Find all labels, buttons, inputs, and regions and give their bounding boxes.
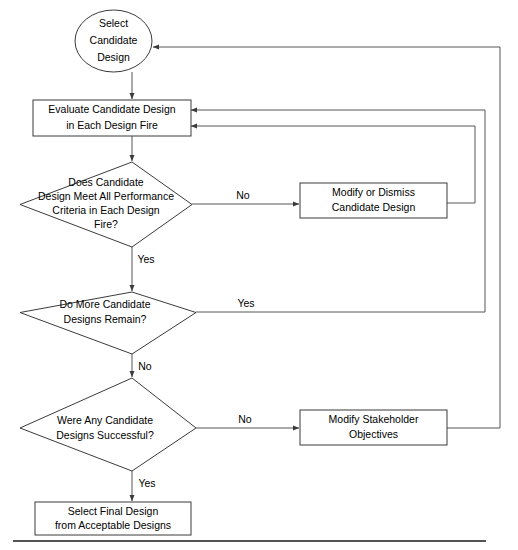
node-modify-or-dismiss-line-2: Candidate Design xyxy=(332,201,416,213)
node-modify-stakeholder-objectives[interactable]: Modify Stakeholder Objectives xyxy=(300,410,447,445)
node-modify-stakeholder-line-1: Modify Stakeholder xyxy=(329,413,419,425)
edge-label-more-candidates-yes: Yes xyxy=(237,297,254,309)
node-performance-criteria-line-2: Design Meet All Performance xyxy=(38,190,174,202)
node-more-candidates-line-1: Do More Candidate xyxy=(59,298,150,310)
node-select-candidate-design[interactable]: Select Candidate Design xyxy=(75,10,152,72)
node-select-final-design[interactable]: Select Final Design from Acceptable Desi… xyxy=(35,502,191,535)
node-performance-criteria-line-4: Fire? xyxy=(94,218,118,230)
node-evaluate-candidate-design[interactable]: Evaluate Candidate Design in Each Design… xyxy=(33,100,191,136)
node-any-successful-decision[interactable]: Were Any Candidate Designs Successful? xyxy=(20,378,196,471)
edge-label-criteria-yes: Yes xyxy=(137,253,154,265)
node-evaluate-candidate-design-line-2: in Each Design Fire xyxy=(66,119,158,131)
edge-label-successful-no: No xyxy=(238,413,252,425)
node-any-successful-line-2: Designs Successful? xyxy=(56,429,154,441)
node-any-successful-line-1: Were Any Candidate xyxy=(57,414,153,426)
node-modify-or-dismiss-candidate-design[interactable]: Modify or Dismiss Candidate Design xyxy=(300,183,447,218)
node-modify-or-dismiss-line-1: Modify or Dismiss xyxy=(332,186,415,198)
node-performance-criteria-decision[interactable]: Does Candidate Design Meet All Performan… xyxy=(20,162,192,247)
node-select-candidate-design-line-1: Select xyxy=(99,17,128,29)
node-select-final-design-line-2: from Acceptable Designs xyxy=(55,519,171,531)
node-more-candidates-decision[interactable]: Do More Candidate Designs Remain? xyxy=(20,292,196,354)
node-performance-criteria-line-3: Criteria in Each Design xyxy=(52,204,160,216)
node-select-candidate-design-line-3: Design xyxy=(97,51,130,63)
flowchart-canvas: Select Candidate Design Evaluate Candida… xyxy=(0,0,518,550)
node-evaluate-candidate-design-line-1: Evaluate Candidate Design xyxy=(48,103,175,115)
node-select-final-design-line-1: Select Final Design xyxy=(68,505,159,517)
node-select-candidate-design-line-2: Candidate xyxy=(90,34,138,46)
flowchart-svg: Select Candidate Design Evaluate Candida… xyxy=(0,0,518,550)
node-modify-stakeholder-line-2: Objectives xyxy=(349,428,398,440)
edge-label-successful-yes: Yes xyxy=(138,477,155,489)
node-performance-criteria-line-1: Does Candidate xyxy=(68,176,143,188)
edge-label-criteria-no: No xyxy=(236,189,250,201)
edge-label-more-candidates-no: No xyxy=(138,360,152,372)
node-more-candidates-line-2: Designs Remain? xyxy=(64,313,147,325)
connector-modify-stakeholder-to-start xyxy=(153,47,500,428)
